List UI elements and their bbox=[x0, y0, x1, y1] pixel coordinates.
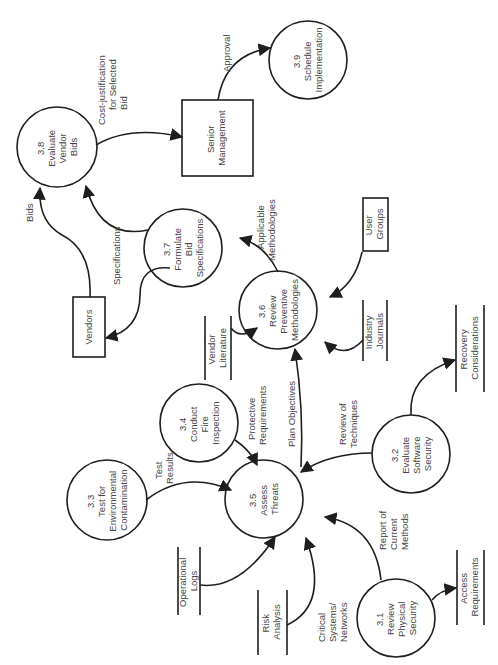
label-report-current-methods: Report of Current Methods bbox=[377, 508, 410, 550]
process-3-1[interactable]: 3.1 Review Physical Security bbox=[357, 579, 435, 657]
svg-text:Vendors: Vendors bbox=[83, 309, 94, 344]
label-critical-systems: Critical Systems/ Networks bbox=[316, 600, 349, 642]
flow-bids bbox=[40, 188, 90, 297]
label-test-results: Test Results bbox=[153, 452, 175, 484]
svg-text:Vendor Literature: Vendor Literature bbox=[206, 328, 228, 368]
process-3-5[interactable]: 3.5 Assess Threats bbox=[225, 460, 303, 538]
entity-user-groups[interactable]: User Groups bbox=[363, 198, 388, 251]
process-3-7[interactable]: 3.7 Formulate Bid Specifications bbox=[144, 209, 222, 287]
store-vendor-literature[interactable]: Vendor Literature bbox=[205, 316, 231, 380]
process-3-2[interactable]: 3.2 Evaluate Software Security bbox=[372, 415, 450, 493]
store-recovery-considerations[interactable]: Recovery Considerations bbox=[456, 305, 484, 392]
flow-review-of-techniques bbox=[301, 453, 372, 472]
process-3-8[interactable]: 3.8 Evaluate Vendor Bids bbox=[17, 107, 97, 187]
store-access-requirements[interactable]: Access Requirements bbox=[457, 550, 484, 625]
flow-test-results bbox=[146, 482, 231, 500]
flow-37-to-38 bbox=[86, 186, 148, 232]
svg-text:Recovery Consideration: Recovery Considerations bbox=[458, 316, 480, 380]
store-risk-analysis[interactable]: Risk Analysis bbox=[258, 590, 287, 655]
label-review-of-techniques: Review of Techniques bbox=[337, 400, 359, 448]
entity-vendors[interactable]: Vendors bbox=[73, 297, 105, 357]
entity-senior-management[interactable]: Senior Management bbox=[182, 100, 253, 176]
svg-text:3.9 Schedule I: 3.9 Schedule Implementation bbox=[291, 28, 324, 93]
svg-text:3.3 Test for E: 3.3 Test for Environmental Contamination bbox=[85, 468, 129, 531]
svg-text:3.5 Assess Thr: 3.5 Assess Threats bbox=[247, 482, 280, 515]
store-operational-logs[interactable]: Operational Logs bbox=[177, 547, 200, 615]
label-applicable-methodologies: Applicable Methodologies bbox=[255, 199, 277, 261]
svg-text:Operational Logs: Operational Logs bbox=[177, 555, 199, 607]
svg-text:3.8 Evaluate V: 3.8 Evaluate Vendor Bids bbox=[35, 127, 79, 167]
flow-critical-systems bbox=[287, 538, 315, 625]
flow-report-current-methods bbox=[325, 517, 381, 580]
label-approval: Approval bbox=[221, 35, 232, 73]
svg-text:User Groups: User Groups bbox=[363, 208, 385, 239]
process-3-9[interactable]: 3.9 Schedule Implementation bbox=[269, 21, 347, 99]
label-plan-objectives: Plan Objectives bbox=[286, 381, 297, 447]
svg-text:Industry Journals: Industry Journals bbox=[363, 313, 385, 349]
store-industry-journals[interactable]: Industry Journals bbox=[363, 300, 387, 361]
process-3-4[interactable]: 3.4 Conduct Fire Inspection bbox=[160, 384, 238, 462]
flow-operational-logs bbox=[200, 537, 275, 585]
data-flow-diagram: 3.8 Evaluate Vendor Bids 3.9 Schedule Im… bbox=[0, 0, 498, 665]
flow-recovery bbox=[411, 360, 455, 415]
svg-text:3.6 Review Pre: 3.6 Review Preventive Methodologies bbox=[256, 279, 300, 341]
svg-text:3.1 Review Phy: 3.1 Review Physical Security bbox=[374, 599, 418, 637]
label-protective-requirements: Protective Requirements bbox=[246, 386, 268, 445]
process-3-3[interactable]: 3.3 Test for Environmental Contamination bbox=[67, 460, 147, 540]
label-bids: Bids bbox=[24, 203, 35, 222]
processes: 3.8 Evaluate Vendor Bids 3.9 Schedule Im… bbox=[17, 21, 450, 657]
label-specifications: Specifications bbox=[111, 226, 122, 285]
svg-text:Risk Analysis: Risk Analysis bbox=[260, 604, 282, 640]
process-3-6[interactable]: 3.6 Review Preventive Methodologies bbox=[239, 271, 317, 349]
flow-access-requirements bbox=[432, 588, 456, 600]
flow-industry-journals bbox=[325, 340, 363, 351]
flow-user-groups bbox=[330, 252, 362, 297]
svg-text:3.4 Conduct Fi: 3.4 Conduct Fire Inspection bbox=[177, 401, 221, 444]
label-cost-justification: Cost-justification for Selected Bid bbox=[96, 53, 129, 125]
svg-text:Senior Management: Senior Management bbox=[205, 110, 227, 166]
svg-text:3.2 Evaluate S: 3.2 Evaluate Software Security bbox=[389, 434, 433, 474]
svg-text:Access Requirements: Access Requirements bbox=[458, 557, 480, 616]
flow-cost-justification bbox=[96, 133, 182, 146]
